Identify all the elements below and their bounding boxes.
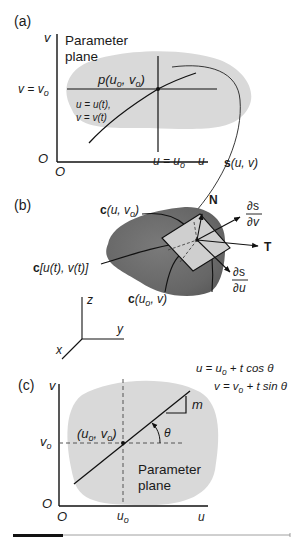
- equation-u: u = uo + t cos θ: [196, 362, 274, 377]
- dsdv-denominator: ∂v: [247, 215, 260, 229]
- dsdu-fraction: ∂s ∂u: [232, 265, 248, 295]
- origin-bottom-a: O: [55, 164, 65, 179]
- v-eq-label: v = vo: [18, 82, 49, 98]
- x-axis-label: x: [55, 343, 63, 357]
- axis-u-label-a: u: [198, 154, 205, 168]
- axis-v-label-a: v: [44, 30, 52, 45]
- u-eq-label: u = uo: [153, 154, 185, 170]
- panel-c: (c) m θ (uo, vo) v vo Parameter plane O …: [18, 362, 288, 525]
- panel-c-tag: (c): [18, 377, 34, 393]
- dsdv-numerator: ∂s: [247, 199, 259, 213]
- curve-eq-v: v = v(t): [76, 112, 107, 123]
- slope-label: m: [192, 397, 203, 412]
- mapping-label-s: s(u, v): [224, 156, 258, 170]
- plane-title-a-2: plane: [65, 49, 98, 64]
- plane-title-c-2: plane: [138, 478, 171, 493]
- origin-left-c: O: [42, 496, 52, 511]
- curve-c-u0-v-label: c(uo, v): [128, 292, 167, 308]
- curve-eq-u: u = u(t),: [76, 99, 111, 110]
- panel-b-tag: (b): [14, 197, 31, 213]
- y-axis-label: y: [116, 322, 124, 336]
- dsdv-fraction: ∂s ∂v: [246, 199, 262, 229]
- bottom-rule: [13, 533, 290, 537]
- panel-a: (a) v Parameter plane v = vo p(uo, vo) u…: [14, 13, 258, 218]
- xyz-axes: z y x: [55, 293, 124, 359]
- plane-title-c-1: Parameter: [138, 462, 202, 477]
- u0-label: uo: [117, 509, 129, 525]
- axis-u-label-c: u: [198, 510, 205, 524]
- panel-b: (b) N T ∂s ∂v ∂s ∂u c(u, vo: [14, 193, 272, 359]
- dsdu-denominator: ∂u: [233, 281, 246, 295]
- point-u0-v0: [121, 441, 125, 445]
- origin-bottom-c: O: [57, 509, 67, 524]
- parametric-surface-diagram: (a) v Parameter plane v = vo p(uo, vo) u…: [0, 0, 301, 537]
- point-p: [156, 87, 160, 91]
- z-axis-label: z: [86, 293, 93, 307]
- panel-a-tag: (a): [14, 13, 31, 29]
- tangent-label: T: [264, 240, 272, 254]
- equation-v: v = vo + t sin θ: [214, 380, 288, 395]
- curve-c-u-v0-label: c(u, vo): [100, 203, 139, 219]
- axis-v-label-c: v: [49, 378, 57, 393]
- v0-label: vo: [40, 434, 52, 451]
- normal-label: N: [209, 193, 218, 207]
- dsdu-numerator: ∂s: [233, 265, 245, 279]
- plane-title-a-1: Parameter: [65, 33, 129, 48]
- angle-label: θ: [164, 426, 171, 440]
- curve-c-ut-vt-label: c[u(t), v(t)]: [33, 261, 89, 275]
- origin-left-a: O: [38, 151, 48, 166]
